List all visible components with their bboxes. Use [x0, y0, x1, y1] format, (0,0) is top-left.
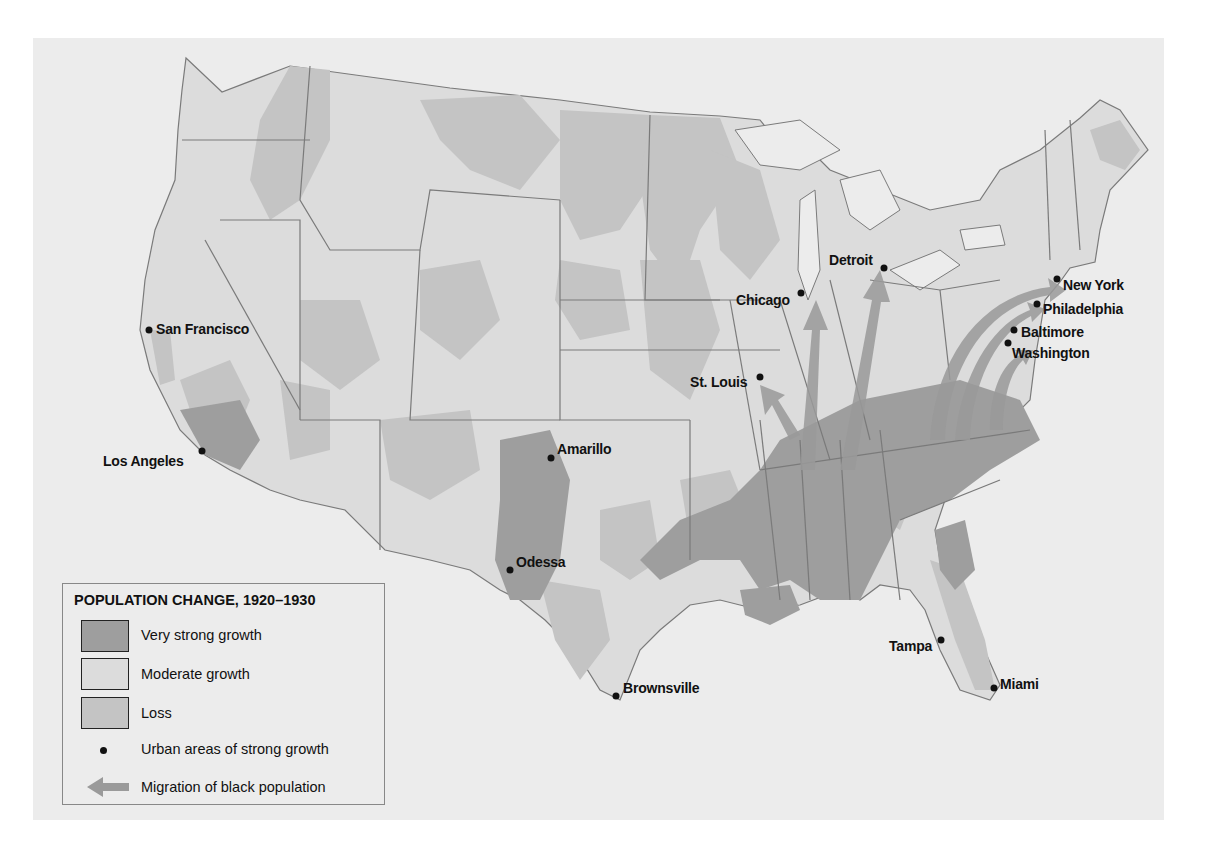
city-dot-icon [146, 327, 153, 334]
legend-label-urban: Urban areas of strong growth [141, 741, 329, 757]
city-label: New York [1063, 277, 1124, 293]
city-dot-icon [938, 637, 945, 644]
city-dot-icon [199, 448, 206, 455]
moderate-growth-swatch [81, 658, 129, 690]
city-label: Tampa [889, 638, 932, 654]
city-dot-icon [507, 567, 514, 574]
city-dot-icon [991, 685, 998, 692]
city-dot-icon [613, 693, 620, 700]
urban-dot-icon [100, 747, 107, 754]
legend-label-moderate: Moderate growth [141, 666, 250, 682]
city-label: Amarillo [557, 441, 611, 457]
city-label: Philadelphia [1043, 301, 1123, 317]
city-label: Odessa [516, 554, 565, 570]
legend-label-very-strong: Very strong growth [141, 627, 262, 643]
very-strong-growth-swatch [81, 620, 129, 652]
legend-label-migration: Migration of black population [141, 779, 326, 795]
migration-arrow-icon [85, 774, 131, 800]
city-label: Brownsville [623, 680, 699, 696]
city-label: Washington [1012, 345, 1090, 361]
city-dot-icon [1034, 301, 1041, 308]
city-label: Chicago [736, 292, 790, 308]
legend-title: POPULATION CHANGE, 1920–1930 [74, 592, 315, 608]
city-dot-icon [1005, 340, 1012, 347]
city-label: Detroit [829, 252, 873, 268]
city-label: Miami [1000, 676, 1039, 692]
city-dot-icon [548, 455, 555, 462]
city-dot-icon [1054, 276, 1061, 283]
city-label: San Francisco [156, 321, 249, 337]
city-dot-icon [881, 265, 888, 272]
city-label: Baltimore [1021, 324, 1084, 340]
city-dot-icon [757, 374, 764, 381]
legend-label-loss: Loss [141, 705, 172, 721]
city-dot-icon [1011, 327, 1018, 334]
city-label: St. Louis [690, 374, 747, 390]
legend: POPULATION CHANGE, 1920–1930 Very strong… [62, 583, 385, 805]
city-label: Los Angeles [103, 453, 184, 469]
loss-swatch [81, 697, 129, 729]
city-dot-icon [798, 290, 805, 297]
